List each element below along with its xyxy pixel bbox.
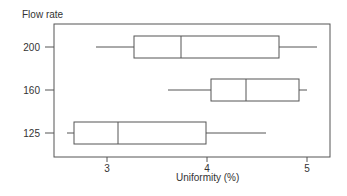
y-tick-label: 200 [23,42,40,53]
x-tick-label: 3 [104,163,110,174]
box-160 [168,79,307,101]
boxes [67,36,317,144]
boxplot-chart: Flow rate 200160125 345 Uniformity (%) [0,0,347,196]
iqr-box [74,122,206,144]
y-axis-title: Flow rate [22,9,64,20]
box-125 [67,122,266,144]
x-tick-label: 5 [304,163,310,174]
x-axis-title: Uniformity (%) [176,172,239,183]
box-200 [96,36,317,58]
y-tick-label: 125 [23,128,40,139]
iqr-box [134,36,279,58]
y-axis: 200160125 [23,42,54,139]
y-tick-label: 160 [23,85,40,96]
iqr-box [211,79,299,101]
